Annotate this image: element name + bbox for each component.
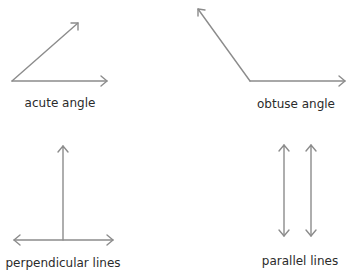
perpendicular-lines-figure (14, 146, 113, 245)
obtuse-angle-figure (198, 9, 345, 86)
acute-angle-figure (12, 23, 107, 86)
parallel-lines-figure (279, 145, 316, 236)
perpendicular-lines-label: perpendicular lines (5, 256, 120, 270)
geometry-diagram (0, 0, 353, 276)
acute-angle-label: acute angle (25, 96, 96, 110)
parallel-lines-label: parallel lines (262, 254, 338, 268)
obtuse-angle-label: obtuse angle (257, 97, 335, 111)
